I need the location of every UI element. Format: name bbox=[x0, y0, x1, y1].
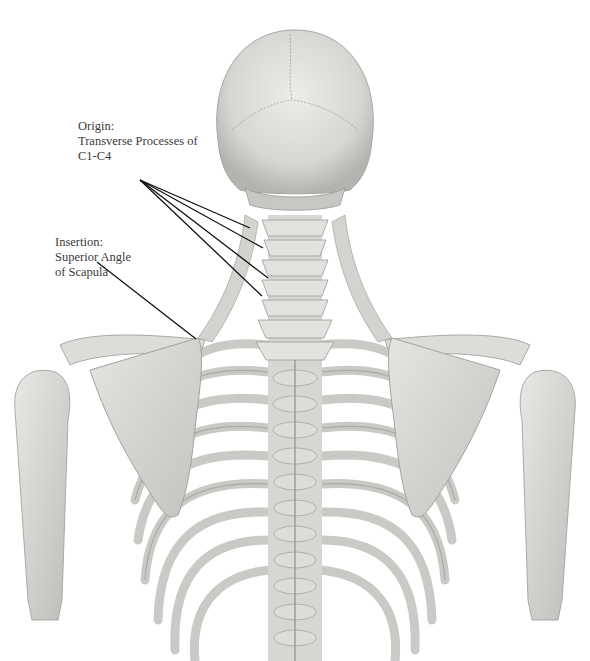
origin-line-1: Transverse Processes of bbox=[78, 134, 198, 149]
origin-label: Origin: Transverse Processes of C1-C4 bbox=[78, 119, 198, 164]
origin-line-2: C1-C4 bbox=[78, 149, 198, 164]
insertion-label: Insertion: Superior Angle of Scapula bbox=[55, 235, 131, 280]
insertion-line-2: of Scapula bbox=[55, 265, 131, 280]
origin-title: Origin: bbox=[78, 119, 198, 134]
insertion-line-1: Superior Angle bbox=[55, 250, 131, 265]
anatomy-diagram: Origin: Transverse Processes of C1-C4 In… bbox=[0, 0, 590, 661]
skeleton-illustration bbox=[0, 0, 590, 661]
insertion-title: Insertion: bbox=[55, 235, 131, 250]
vertebral-column bbox=[256, 215, 334, 661]
skull bbox=[217, 30, 374, 210]
